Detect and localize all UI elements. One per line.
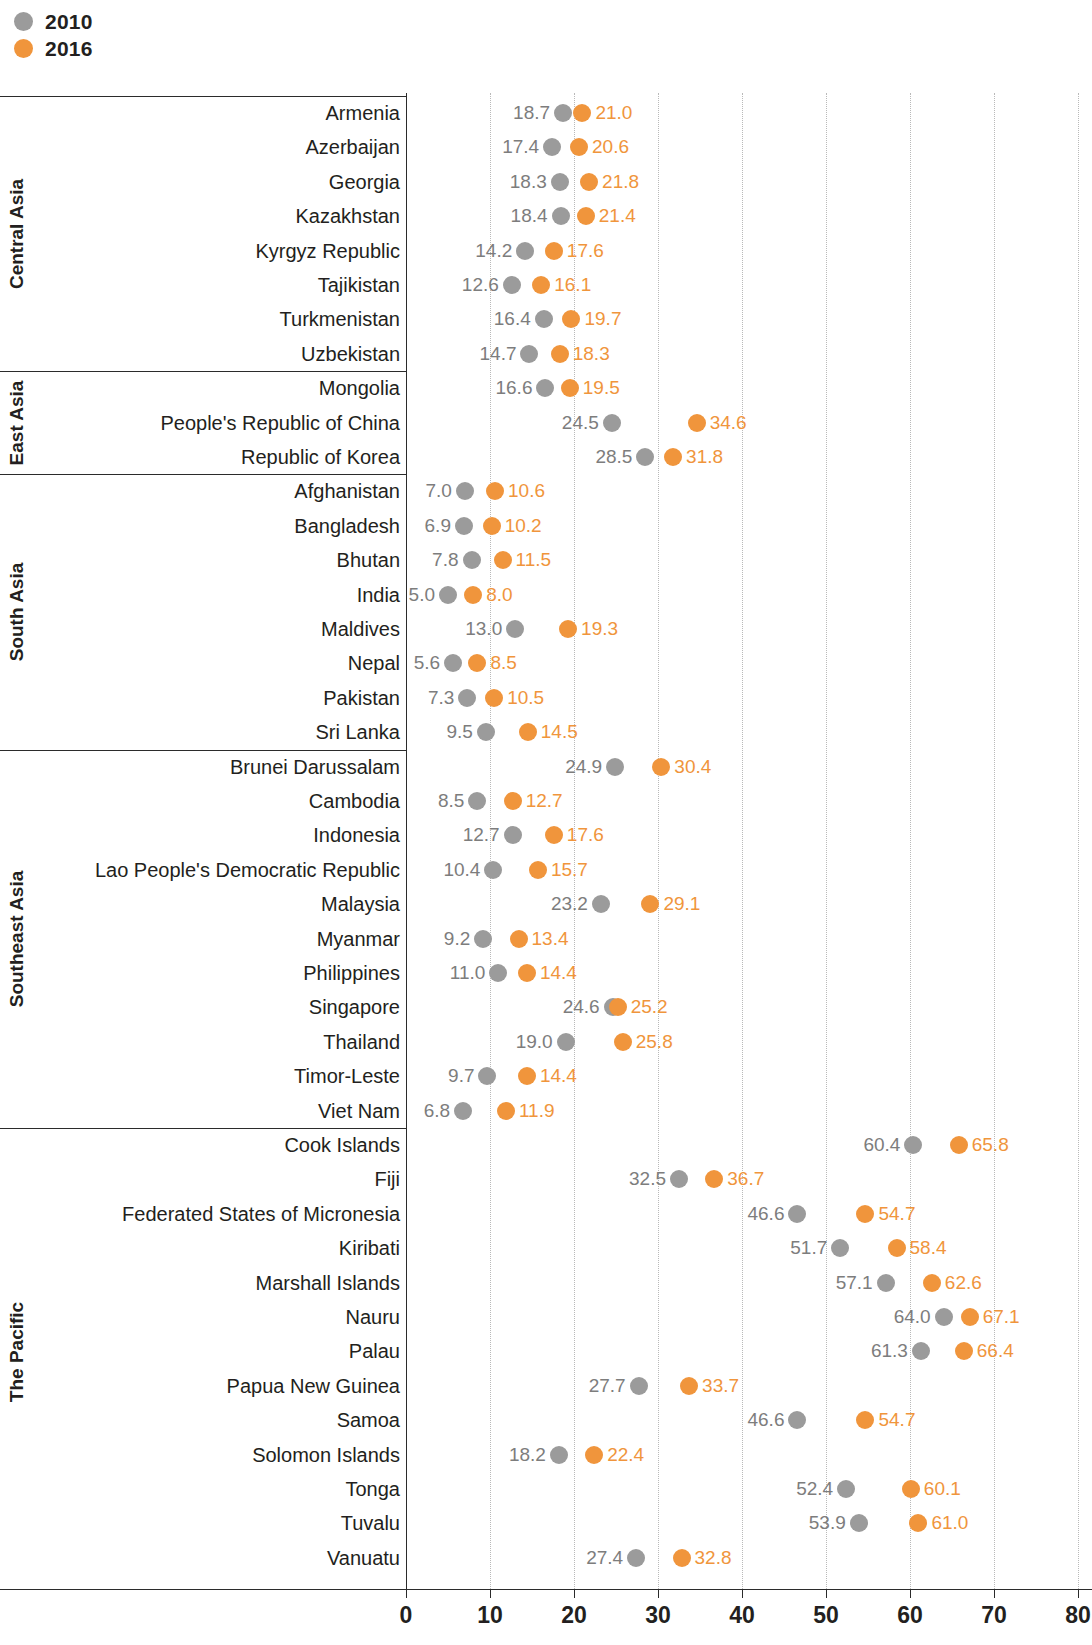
data-point-2016 bbox=[950, 1136, 968, 1154]
row-category-label: Pakistan bbox=[323, 681, 400, 715]
chart-row: Vanuatu27.432.8 bbox=[0, 1541, 1092, 1575]
value-label-2010: 27.7 bbox=[589, 1369, 626, 1403]
data-point-2016 bbox=[577, 207, 595, 225]
row-category-label: Myanmar bbox=[317, 922, 400, 956]
data-point-2016 bbox=[961, 1308, 979, 1326]
data-point-2016 bbox=[562, 310, 580, 328]
data-point-2010 bbox=[636, 448, 654, 466]
data-point-2016 bbox=[483, 517, 501, 535]
x-tick-label-0: 0 bbox=[400, 1602, 413, 1629]
data-point-2010 bbox=[912, 1342, 930, 1360]
data-point-2010 bbox=[503, 276, 521, 294]
row-category-label: Tajikistan bbox=[318, 268, 400, 302]
chart-row: Fiji32.536.7 bbox=[0, 1162, 1092, 1196]
value-label-2010: 52.4 bbox=[796, 1472, 833, 1506]
value-label-2016: 22.4 bbox=[607, 1438, 644, 1472]
chart-row: Marshall Islands57.162.6 bbox=[0, 1266, 1092, 1300]
value-label-2016: 20.6 bbox=[592, 130, 629, 164]
data-point-2010 bbox=[788, 1411, 806, 1429]
data-point-2010 bbox=[554, 104, 572, 122]
value-label-2010: 27.4 bbox=[586, 1541, 623, 1575]
value-label-2010: 6.8 bbox=[424, 1094, 450, 1128]
data-point-2010 bbox=[456, 482, 474, 500]
chart-row: Singapore24.625.2 bbox=[0, 990, 1092, 1024]
row-category-label: Bangladesh bbox=[294, 509, 400, 543]
legend-item-2016: 2016 bbox=[14, 35, 314, 62]
row-category-label: Marshall Islands bbox=[255, 1266, 400, 1300]
data-point-2016 bbox=[688, 414, 706, 432]
chart-row: Lao People's Democratic Republic10.415.7 bbox=[0, 853, 1092, 887]
value-label-2016: 67.1 bbox=[983, 1300, 1020, 1334]
value-label-2010: 14.7 bbox=[480, 337, 517, 371]
value-label-2010: 24.6 bbox=[563, 990, 600, 1024]
data-point-2010 bbox=[516, 242, 534, 260]
value-label-2016: 62.6 bbox=[945, 1266, 982, 1300]
chart-row: Thailand19.025.8 bbox=[0, 1025, 1092, 1059]
value-label-2016: 21.4 bbox=[599, 199, 636, 233]
value-label-2016: 34.6 bbox=[710, 406, 747, 440]
value-label-2010: 10.4 bbox=[443, 853, 480, 887]
value-label-2016: 12.7 bbox=[526, 784, 563, 818]
row-category-label: Kazakhstan bbox=[295, 199, 400, 233]
value-label-2010: 9.5 bbox=[446, 715, 472, 749]
row-category-label: Tuvalu bbox=[341, 1506, 400, 1540]
value-label-2016: 61.0 bbox=[931, 1506, 968, 1540]
row-category-label: Samoa bbox=[337, 1403, 400, 1437]
data-point-2016 bbox=[641, 895, 659, 913]
data-point-2016 bbox=[705, 1170, 723, 1188]
row-category-label: Nepal bbox=[348, 646, 400, 680]
row-category-label: Brunei Darussalam bbox=[230, 750, 400, 784]
value-label-2010: 24.9 bbox=[565, 750, 602, 784]
value-label-2010: 23.2 bbox=[551, 887, 588, 921]
value-label-2010: 16.6 bbox=[495, 371, 532, 405]
x-tick-label-80: 80 bbox=[1065, 1602, 1091, 1629]
data-point-2010 bbox=[788, 1205, 806, 1223]
value-label-2010: 7.3 bbox=[428, 681, 454, 715]
row-category-label: Sri Lanka bbox=[316, 715, 401, 749]
value-label-2016: 14.5 bbox=[541, 715, 578, 749]
chart-row: Bhutan7.811.5 bbox=[0, 543, 1092, 577]
chart-row: Nauru64.067.1 bbox=[0, 1300, 1092, 1334]
value-label-2016: 18.3 bbox=[573, 337, 610, 371]
value-label-2016: 19.7 bbox=[584, 302, 621, 336]
value-label-2010: 18.2 bbox=[509, 1438, 546, 1472]
chart-row: Kiribati51.758.4 bbox=[0, 1231, 1092, 1265]
value-label-2016: 25.2 bbox=[631, 990, 668, 1024]
row-category-label: India bbox=[357, 578, 400, 612]
data-point-2010 bbox=[543, 138, 561, 156]
chart-row: Bangladesh6.910.2 bbox=[0, 509, 1092, 543]
row-category-label: Mongolia bbox=[319, 371, 400, 405]
data-point-2010 bbox=[458, 689, 476, 707]
data-point-2010 bbox=[557, 1033, 575, 1051]
value-label-2010: 6.9 bbox=[425, 509, 451, 543]
data-point-2016 bbox=[529, 861, 547, 879]
row-category-label: Papua New Guinea bbox=[227, 1369, 400, 1403]
row-category-label: Nauru bbox=[346, 1300, 400, 1334]
value-label-2010: 7.8 bbox=[432, 543, 458, 577]
chart-row: Timor-Leste9.714.4 bbox=[0, 1059, 1092, 1093]
data-point-2016 bbox=[545, 826, 563, 844]
row-category-label: Cook Islands bbox=[284, 1128, 400, 1162]
data-point-2016 bbox=[652, 758, 670, 776]
data-point-2010 bbox=[550, 1446, 568, 1464]
x-tick-label-20: 20 bbox=[561, 1602, 587, 1629]
value-label-2016: 11.9 bbox=[519, 1094, 555, 1128]
value-label-2010: 17.4 bbox=[502, 130, 539, 164]
data-point-2010 bbox=[627, 1549, 645, 1567]
value-label-2010: 18.7 bbox=[513, 96, 550, 130]
row-category-label: Kyrgyz Republic bbox=[255, 234, 400, 268]
value-label-2016: 16.1 bbox=[554, 268, 591, 302]
row-category-label: Azerbaijan bbox=[305, 130, 400, 164]
row-category-label: Palau bbox=[349, 1334, 400, 1368]
x-tick-label-10: 10 bbox=[477, 1602, 503, 1629]
data-point-2010 bbox=[468, 792, 486, 810]
value-label-2010: 8.5 bbox=[438, 784, 464, 818]
data-point-2010 bbox=[520, 345, 538, 363]
chart-row: Cook Islands60.465.8 bbox=[0, 1128, 1092, 1162]
data-point-2016 bbox=[856, 1205, 874, 1223]
value-label-2016: 8.5 bbox=[490, 646, 516, 680]
value-label-2016: 65.8 bbox=[972, 1128, 1009, 1162]
value-label-2010: 46.6 bbox=[747, 1197, 784, 1231]
value-label-2010: 11.0 bbox=[450, 956, 486, 990]
chart-row: Solomon Islands18.222.4 bbox=[0, 1438, 1092, 1472]
